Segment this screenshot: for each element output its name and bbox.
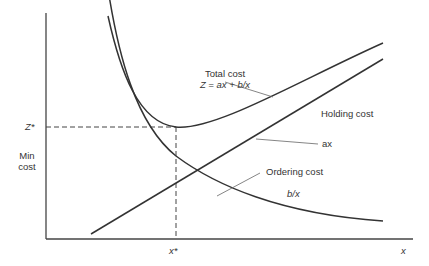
x-star-label: x* bbox=[169, 245, 177, 256]
total-cost-label: Total cost Z = ax + b/x bbox=[180, 68, 270, 90]
ordering-cost-formula: b/x bbox=[287, 188, 300, 199]
z-star-label: Z* bbox=[25, 121, 35, 132]
holding-cost-label: Holding cost bbox=[321, 108, 373, 119]
cost-curves-plot bbox=[0, 0, 429, 266]
total-cost-formula: Z = ax + b/x bbox=[180, 79, 270, 90]
ax-leader bbox=[256, 139, 318, 144]
ordering-cost-label: Ordering cost bbox=[266, 166, 323, 177]
x-axis-label: x bbox=[401, 245, 406, 256]
min-cost-line2: cost bbox=[12, 161, 42, 172]
holding-cost-formula: ax bbox=[322, 138, 332, 149]
min-cost-label: Min cost bbox=[12, 150, 42, 172]
total-cost-title: Total cost bbox=[180, 68, 270, 79]
min-cost-line1: Min bbox=[12, 150, 42, 161]
